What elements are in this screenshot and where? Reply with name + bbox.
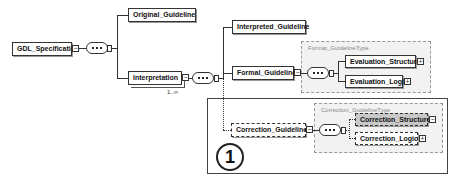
connector-optional xyxy=(223,79,224,130)
type-label: Format_GuidelineType xyxy=(308,45,369,51)
element-label: Correction_Guideline xyxy=(236,126,307,133)
element-formal-guideline[interactable]: Formal_Guideline xyxy=(232,66,294,80)
connector xyxy=(223,27,224,79)
collapse-icon[interactable]: − xyxy=(182,74,189,81)
element-correction-guideline[interactable]: Correction_Guideline xyxy=(231,123,306,137)
callout-number: 1 xyxy=(225,147,235,167)
element-original-guideline[interactable]: Original_Guideline xyxy=(128,8,196,22)
connector xyxy=(338,61,345,62)
sequence-compositor xyxy=(192,72,214,84)
connector xyxy=(338,61,339,82)
element-interpretation[interactable]: Interpretation xyxy=(128,71,182,85)
xsd-schema-diagram: GDL_Specification − Original_Guideline I… xyxy=(0,0,462,184)
collapse-icon[interactable]: − xyxy=(306,126,313,133)
expand-icon[interactable]: + xyxy=(404,78,411,85)
sequence-compositor xyxy=(86,42,108,54)
collapse-icon[interactable]: − xyxy=(72,45,79,52)
sequence-connector-icon xyxy=(214,75,219,82)
element-label: Evaluation_Logic xyxy=(350,78,408,85)
sequence-compositor xyxy=(307,67,329,79)
connector-optional xyxy=(349,119,350,139)
occurrence-label: 1..∞ xyxy=(167,89,178,95)
connector xyxy=(223,73,232,74)
connector xyxy=(223,27,232,28)
element-correction-structure[interactable]: Correction_Structure xyxy=(355,113,428,126)
element-label: Interpretation xyxy=(133,74,178,81)
element-label: Correction_Structure xyxy=(360,116,430,123)
element-label: Evaluation_Structure xyxy=(350,58,420,65)
callout-number-badge: 1 xyxy=(216,143,244,171)
element-label: Correction_Logic xyxy=(360,135,418,142)
element-label: Formal_Guideline xyxy=(237,69,296,76)
element-label: Interpreted_Guideline xyxy=(237,23,309,30)
sequence-compositor xyxy=(319,124,341,136)
element-interpreted-guideline[interactable]: Interpreted_Guideline xyxy=(232,20,306,34)
connector xyxy=(338,81,345,82)
connector xyxy=(117,15,118,79)
element-evaluation-logic[interactable]: Evaluation_Logic xyxy=(345,75,403,88)
element-evaluation-structure[interactable]: Evaluation_Structure xyxy=(345,55,416,68)
sequence-connector-icon xyxy=(107,45,112,52)
element-label: Original_Guideline xyxy=(133,11,195,18)
connector xyxy=(117,78,128,79)
element-label: GDL_Specification xyxy=(17,45,79,52)
element-correction-logic[interactable]: Correction_Logic xyxy=(355,132,418,145)
connector-optional xyxy=(223,130,231,131)
element-gdl-specification[interactable]: GDL_Specification xyxy=(12,42,72,56)
expand-icon[interactable]: + xyxy=(419,135,426,142)
collapse-icon[interactable]: − xyxy=(294,69,301,76)
expand-icon[interactable]: + xyxy=(417,58,424,65)
collapse-icon[interactable]: − xyxy=(429,116,436,123)
connector xyxy=(117,15,128,16)
